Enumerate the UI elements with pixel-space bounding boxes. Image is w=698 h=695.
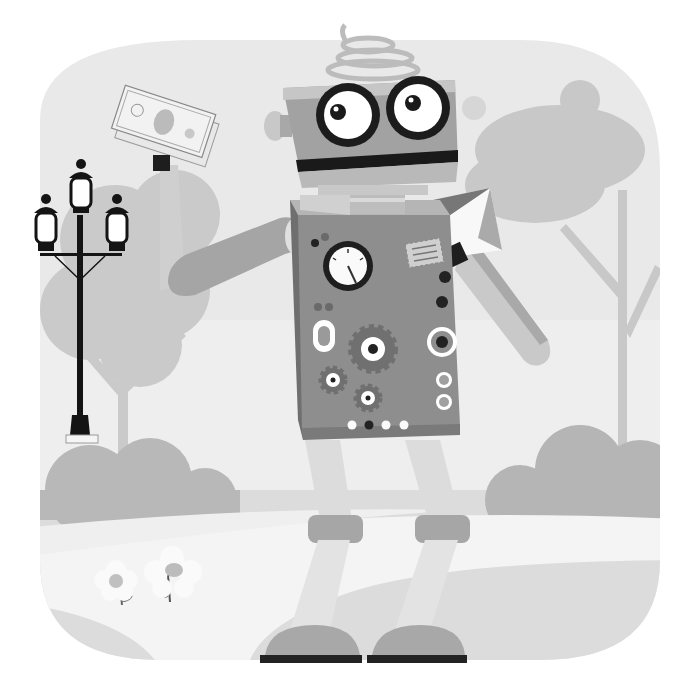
robot-right-eye <box>386 76 450 140</box>
robot-torso <box>290 200 460 440</box>
robot-left-eye <box>316 83 380 147</box>
illustration-scene: Cartoon robot in a park holding money an… <box>0 0 698 695</box>
gear-large <box>351 327 395 371</box>
gauge-dial <box>323 241 373 291</box>
gear-small-right <box>356 386 380 410</box>
right-ear-bolt <box>462 96 486 120</box>
scene-svg <box>0 0 698 695</box>
robot-left-hand <box>153 155 170 171</box>
gear-small-left <box>321 368 345 392</box>
